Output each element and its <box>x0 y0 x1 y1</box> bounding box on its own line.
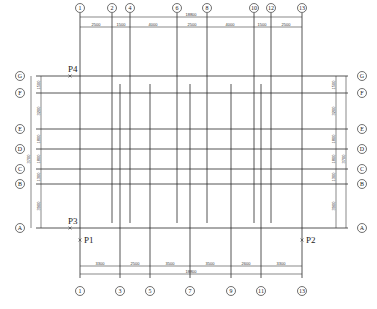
bottom-dimension: 2500 <box>131 261 141 266</box>
left-dimension: 3900 <box>36 201 41 211</box>
point-label-P1: P1 <box>84 235 94 245</box>
right-combined-dimension: 3700 <box>341 154 346 164</box>
right-dimension: 1300 <box>331 172 336 182</box>
left-dimension: 1300 <box>36 172 41 182</box>
axis-label-10: 10 <box>251 5 257 11</box>
axis-label-3: 3 <box>119 288 122 294</box>
axis-label-8: 8 <box>206 5 209 11</box>
bottom-dimension: 3300 <box>96 261 106 266</box>
left-combined-dimension: 3700 <box>26 154 31 164</box>
bottom-dimension: 2600 <box>242 261 252 266</box>
right-dimension: 3900 <box>331 201 336 211</box>
right-dimension: 1800 <box>331 154 336 164</box>
axis-label-C: C <box>18 166 22 172</box>
bottom-dimension: 3500 <box>206 261 216 266</box>
point-label-P2: P2 <box>306 235 316 245</box>
axis-label-C: C <box>360 166 364 172</box>
axis-label-D: D <box>360 146 365 152</box>
point-label-P4: P4 <box>68 64 78 74</box>
left-dimension: 1500 <box>36 80 41 90</box>
top-dimension: 1500 <box>258 22 268 27</box>
axis-label-E: E <box>360 126 364 132</box>
axis-label-9: 9 <box>230 288 233 294</box>
axis-label-13: 13 <box>299 5 305 11</box>
top-dimension: 4000 <box>149 22 159 27</box>
axis-label-G: G <box>18 73 23 79</box>
axis-label-11: 11 <box>258 288 264 294</box>
axis-label-G: G <box>360 73 365 79</box>
axis-label-D: D <box>18 146 23 152</box>
bottom-dimension: 3300 <box>277 261 287 266</box>
axis-label-6: 6 <box>176 5 179 11</box>
bottom-dimension: 3500 <box>166 261 176 266</box>
axis-label-B: B <box>360 181 364 187</box>
axis-label-1: 1 <box>79 5 82 11</box>
left-dimension: 3200 <box>36 106 41 116</box>
top-dimension: 2500 <box>282 22 292 27</box>
bottom-total-dimension: 18800 <box>185 269 197 274</box>
axis-label-13: 13 <box>299 288 305 294</box>
axis-label-B: B <box>18 181 22 187</box>
top-total-dimension: 18800 <box>185 12 197 17</box>
left-dimension: 1800 <box>36 134 41 144</box>
axis-label-1: 1 <box>79 288 82 294</box>
left-dimension: 1800 <box>36 154 41 164</box>
axis-label-5: 5 <box>149 288 152 294</box>
right-dimension: 1800 <box>331 134 336 144</box>
grid-drawing: 1246810121313579111318800250015004000250… <box>0 0 377 309</box>
top-dimension: 4000 <box>226 22 236 27</box>
axis-label-4: 4 <box>129 5 132 11</box>
point-label-P3: P3 <box>68 216 78 226</box>
axis-label-7: 7 <box>189 288 192 294</box>
axis-label-2: 2 <box>111 5 114 11</box>
axis-label-A: A <box>18 225 23 231</box>
top-dimension: 2500 <box>188 22 198 27</box>
right-dimension: 3200 <box>331 106 336 116</box>
right-dimension: 1500 <box>331 80 336 90</box>
top-dimension: 1500 <box>117 22 127 27</box>
axis-label-E: E <box>18 126 22 132</box>
top-dimension: 2500 <box>92 22 102 27</box>
axis-label-12: 12 <box>268 5 274 11</box>
axis-label-A: A <box>360 225 365 231</box>
